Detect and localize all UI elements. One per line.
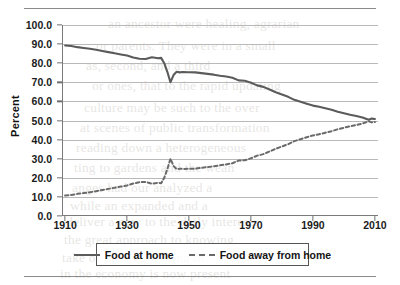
x-tick-label: 1950 xyxy=(177,219,200,231)
x-axis-tick-labels: 191019301950197019902010 xyxy=(62,219,378,235)
x-tick-label: 1990 xyxy=(301,219,324,231)
legend-item: Food at home xyxy=(74,249,174,261)
solid-line-icon xyxy=(74,254,100,256)
y-tick-label: 70.0 xyxy=(32,76,52,88)
y-tick-label: 20.0 xyxy=(32,172,52,184)
y-tick-label: 90.0 xyxy=(32,38,52,50)
series-line xyxy=(65,121,375,195)
dashed-line-icon xyxy=(189,254,215,256)
y-tick-label: 50.0 xyxy=(32,115,52,127)
y-axis-tick-labels: 0.010.020.030.040.050.060.070.080.090.01… xyxy=(0,25,58,216)
x-tick-label: 1930 xyxy=(115,219,138,231)
legend-label: Food at home xyxy=(105,249,174,261)
y-tick-label: 0.0 xyxy=(37,210,52,222)
y-tick-label: 40.0 xyxy=(32,134,52,146)
y-tick-label: 60.0 xyxy=(32,95,52,107)
series-line xyxy=(65,45,375,119)
y-tick-label: 100.0 xyxy=(26,19,52,31)
legend-label: Food away from home xyxy=(220,249,331,261)
x-tick-label: 1970 xyxy=(239,219,262,231)
horizontal-rule-bottom xyxy=(24,276,376,277)
x-tick-label: 1910 xyxy=(53,219,76,231)
chart-figure: Percent 0.010.020.030.040.050.060.070.08… xyxy=(0,0,400,285)
y-tick-label: 30.0 xyxy=(32,153,52,165)
legend-item: Food away from home xyxy=(189,249,331,261)
chart-legend: Food at homeFood away from home xyxy=(96,243,309,266)
y-tick-label: 10.0 xyxy=(32,191,52,203)
y-tick-label: 80.0 xyxy=(32,57,52,69)
horizontal-rule-top xyxy=(24,8,376,9)
x-tick-label: 2010 xyxy=(363,219,386,231)
series-container xyxy=(62,25,378,216)
